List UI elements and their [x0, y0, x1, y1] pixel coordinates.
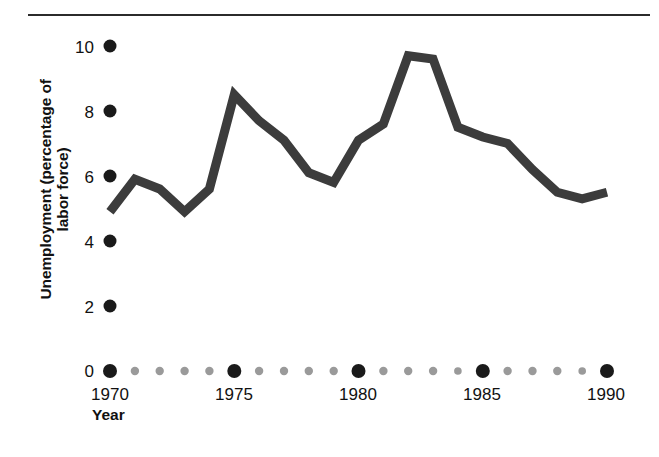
x-axis-dot-1975 [227, 364, 241, 378]
y-axis-dot-6 [104, 170, 117, 183]
x-axis-dot-1985 [476, 364, 490, 378]
y-axis-dot-8 [104, 105, 117, 118]
x-axis-dot-1970 [103, 364, 117, 378]
unemployment-line-series [110, 56, 607, 212]
x-axis-dot-1978 [305, 367, 313, 375]
y-axis-dot-4 [104, 235, 117, 248]
x-axis-dot-1971 [131, 367, 139, 375]
x-axis-dot-1984 [454, 367, 462, 375]
x-axis-marker-dots [103, 364, 614, 378]
x-axis-dot-1974 [205, 367, 213, 375]
y-axis-dot-2 [104, 300, 117, 313]
y-axis-marker-dots [104, 40, 117, 313]
chart-plot-area [0, 0, 659, 457]
x-axis-dot-1981 [379, 367, 387, 375]
x-axis-dot-1989 [578, 367, 586, 375]
x-axis-dot-1980 [352, 364, 366, 378]
x-axis-dot-1977 [280, 367, 288, 375]
x-axis-dot-1990 [600, 364, 614, 378]
x-axis-dot-1988 [553, 367, 561, 375]
chart-figure: Unemployment (percentage of labor force)… [0, 0, 659, 457]
x-axis-dot-1972 [156, 367, 164, 375]
x-axis-dot-1986 [503, 367, 511, 375]
x-axis-dot-1983 [429, 367, 437, 375]
x-axis-dot-1973 [180, 367, 188, 375]
x-axis-dot-1982 [404, 367, 412, 375]
y-axis-dot-10 [104, 40, 117, 53]
x-axis-dot-1979 [330, 367, 338, 375]
x-axis-dot-1987 [528, 367, 536, 375]
x-axis-dot-1976 [255, 367, 263, 375]
